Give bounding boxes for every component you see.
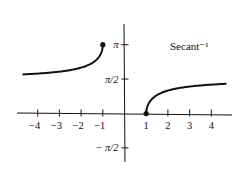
x-tick-label: 1 <box>144 120 149 131</box>
secant-inverse-chart: −4−3−2−11234 ππ/2− π/2 Secant⁻¹ <box>0 0 248 169</box>
x-tick-label: −2 <box>73 120 84 131</box>
endpoint-dot-right <box>144 111 149 116</box>
x-tick-label: −4 <box>29 120 41 131</box>
x-tick-label: −3 <box>51 120 62 131</box>
chart-title: Secant⁻¹ <box>170 40 208 52</box>
endpoint-dot-left <box>100 42 105 47</box>
y-tick-label: π/2 <box>105 74 119 85</box>
x-tick-label: 2 <box>165 120 170 131</box>
y-tick-label: π <box>113 39 119 50</box>
x-tick-label: 4 <box>209 120 215 131</box>
x-ticks: −4−3−2−11234 <box>29 110 215 131</box>
curve-left <box>23 45 103 75</box>
y-tick-label: − π/2 <box>95 142 119 153</box>
x-tick-label: −1 <box>94 120 105 131</box>
x-tick-label: 3 <box>187 120 192 131</box>
curve-right <box>146 84 226 114</box>
